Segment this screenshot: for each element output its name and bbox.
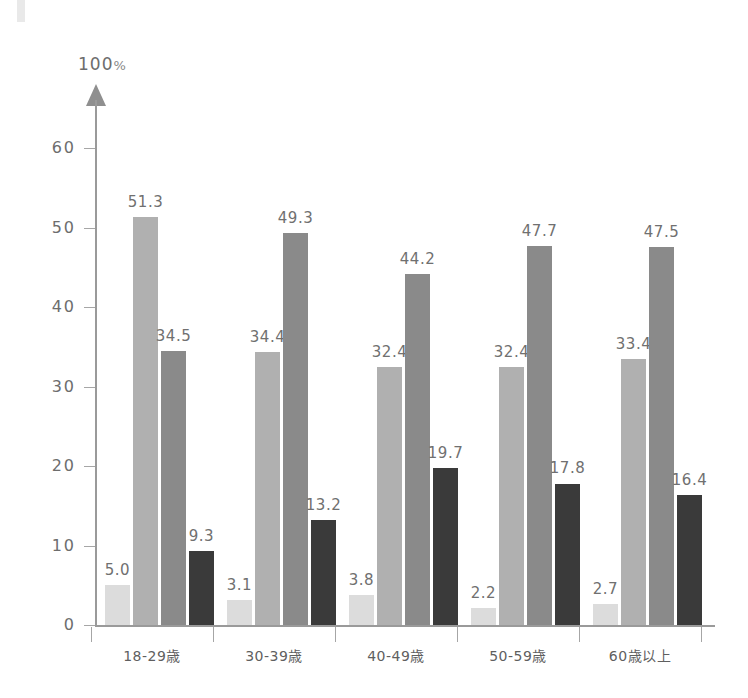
y-axis-tick	[84, 148, 95, 149]
x-axis-group-separator	[457, 627, 458, 642]
y-axis-tick	[84, 307, 95, 308]
bar-series-2-1	[133, 217, 158, 625]
y-axis-tick-label: 60	[20, 138, 76, 157]
x-axis-category-label: 18-29歳	[91, 645, 213, 665]
bar-series-4-2	[311, 520, 336, 625]
y-axis-tick	[84, 466, 95, 467]
y-axis-tick-label: 40	[20, 297, 76, 316]
x-axis-category-label: 30-39歳	[213, 645, 335, 665]
bar-series-3-4	[527, 246, 552, 625]
bar-series-3-2	[283, 233, 308, 625]
bar-value-label: 47.5	[637, 223, 686, 241]
y-axis-tick-label: 0	[20, 615, 76, 634]
x-axis-group-separator	[335, 627, 336, 642]
y-axis-unit-value: 100	[78, 54, 113, 74]
bar-value-label: 16.4	[665, 471, 714, 489]
y-axis-tick-label: 50	[20, 218, 76, 237]
bar-series-1-2	[227, 600, 252, 625]
bar-series-3-1	[161, 351, 186, 625]
y-axis-tick-label: 10	[20, 536, 76, 555]
y-axis-unit-symbol: %	[113, 58, 126, 73]
bar-value-label: 19.7	[421, 444, 470, 462]
bar-series-2-3	[377, 367, 402, 625]
x-axis-category-label: 40-49歳	[335, 645, 457, 665]
y-axis-unit: 100%	[78, 54, 127, 74]
bar-value-label: 51.3	[121, 193, 170, 211]
y-axis-tick	[84, 387, 95, 388]
bar-series-4-4	[555, 484, 580, 626]
bar-series-2-4	[499, 367, 524, 625]
y-axis-tick-label: 20	[20, 456, 76, 475]
bar-series-4-1	[189, 551, 214, 625]
x-axis-group-separator	[579, 627, 580, 642]
bar-value-label: 9.3	[177, 527, 226, 545]
x-axis-category-label: 50-59歳	[457, 645, 579, 665]
bar-series-2-5	[621, 359, 646, 625]
y-axis-tick-label: 30	[20, 377, 76, 396]
bar-value-label: 49.3	[271, 209, 320, 227]
y-axis-tick	[84, 625, 95, 626]
bar-chart: 100% 0102030405060 5.051.334.59.33.134.4…	[0, 0, 748, 698]
bar-series-3-5	[649, 247, 674, 625]
bar-series-4-3	[433, 468, 458, 625]
x-axis-group-separator	[213, 627, 214, 642]
y-axis-tick	[84, 546, 95, 547]
x-axis-category-label: 60歳以上	[579, 645, 701, 665]
bar-series-1-5	[593, 604, 618, 625]
x-axis-line	[95, 625, 715, 627]
y-axis-tick	[84, 228, 95, 229]
bar-series-4-5	[677, 495, 702, 625]
bar-series-1-3	[349, 595, 374, 625]
x-axis-group-separator	[701, 627, 702, 642]
x-axis-group-separator	[91, 627, 92, 642]
bar-value-label: 44.2	[393, 250, 442, 268]
bar-series-2-2	[255, 352, 280, 625]
bar-series-1-1	[105, 585, 130, 625]
bar-value-label: 34.5	[149, 327, 198, 345]
bar-value-label: 47.7	[515, 222, 564, 240]
bar-value-label: 17.8	[543, 459, 592, 477]
y-axis-line	[95, 100, 97, 626]
bar-value-label: 13.2	[299, 496, 348, 514]
scan-corner-mark	[17, 0, 25, 22]
bar-series-1-4	[471, 608, 496, 625]
